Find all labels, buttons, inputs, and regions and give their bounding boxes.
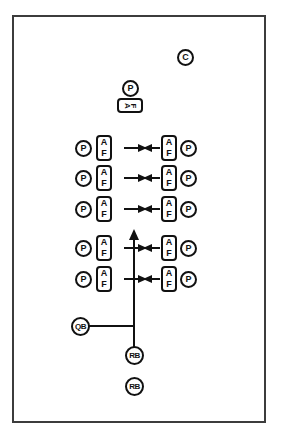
row-5-left-back-label: P [80,275,86,284]
row-5-right-back-label: P [185,275,191,284]
row-1-left-back-label: P [80,144,86,153]
row-3-right-back-label: P [185,205,191,214]
row-4-left-back-label: P [80,244,86,253]
row-3-right-back[interactable]: P [180,201,197,218]
row-2-right-line-label-a: A [166,167,173,178]
runningback-1-label: RB [129,352,140,360]
row-4-right-line-label-a: A [166,237,173,248]
row-3-right-line-label-a: A [166,198,173,209]
row-2-left-line-label-f: F [101,178,107,189]
row-5-left-line-box[interactable]: A F [96,266,112,292]
row-4-right-back-label: P [185,244,191,253]
quarterback-marker[interactable]: QB [71,317,90,336]
runningback-1-marker[interactable]: RB [125,346,144,365]
row-1-right-back-label: P [185,144,191,153]
row-2-right-back[interactable]: P [180,170,197,187]
row-5-left-line-label-a: A [101,268,108,279]
row-1-right-line-box[interactable]: A F [161,135,177,161]
center-back-marker[interactable]: P [122,80,139,97]
row-2-left-line-label-a: A [101,167,108,178]
quarterback-label: QB [75,323,86,331]
row-4-right-back[interactable]: P [180,240,197,257]
row-5-right-back[interactable]: P [180,271,197,288]
coach-marker-label: C [182,53,189,62]
row-4-right-line-box[interactable]: A F [161,235,177,261]
row-3-left-line-box[interactable]: A F [96,196,112,222]
row-2-right-back-label: P [185,174,191,183]
diagram-route-lines [0,0,283,437]
row-5-right-line-label-a: A [166,268,173,279]
row-2-left-line-box[interactable]: A F [96,165,112,191]
center-line-box[interactable]: A F [117,98,143,113]
runningback-2-marker[interactable]: RB [125,377,144,396]
coach-marker[interactable]: C [177,49,194,66]
row-4-left-back[interactable]: P [75,240,92,257]
row-1-left-line-label-f: F [101,148,107,159]
row-1-left-back[interactable]: P [75,140,92,157]
row-3-left-back-label: P [80,205,86,214]
row-5-left-line-label-f: F [101,279,107,290]
row-1-right-back[interactable]: P [180,140,197,157]
row-3-right-line-box[interactable]: A F [161,196,177,222]
row-5-right-line-box[interactable]: A F [161,266,177,292]
row-5-arrows [124,275,160,283]
center-line-label-f: F [130,103,138,108]
row-4-left-line-label-a: A [101,237,108,248]
row-1-arrows [124,144,160,152]
row-2-left-back[interactable]: P [75,170,92,187]
row-2-left-back-label: P [80,174,86,183]
row-1-left-line-box[interactable]: A F [96,135,112,161]
row-3-right-line-label-f: F [166,209,172,220]
row-3-left-line-label-f: F [101,209,107,220]
row-2-arrows [124,174,160,182]
row-3-left-back[interactable]: P [75,201,92,218]
row-3-arrows [124,205,160,213]
row-2-right-line-box[interactable]: A F [161,165,177,191]
row-4-arrows [124,244,160,252]
row-4-left-line-label-f: F [101,248,107,259]
row-2-right-line-label-f: F [166,178,172,189]
row-1-right-line-label-a: A [166,137,173,148]
row-1-left-line-label-a: A [101,137,108,148]
play-diagram-page: C P A F P A F A F P P A F A F P P A F [0,0,283,437]
runningback-2-label: RB [129,383,140,391]
row-5-right-line-label-f: F [166,279,172,290]
row-1-right-line-label-f: F [166,148,172,159]
row-4-left-line-box[interactable]: A F [96,235,112,261]
center-back-label: P [127,84,133,93]
row-5-left-back[interactable]: P [75,271,92,288]
row-4-right-line-label-f: F [166,248,172,259]
row-3-left-line-label-a: A [101,198,108,209]
